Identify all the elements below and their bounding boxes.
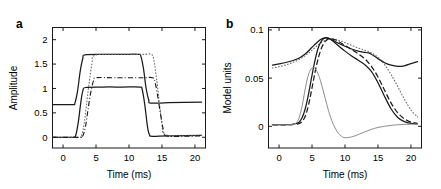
data-series-line (53, 54, 202, 104)
data-series-line (53, 54, 202, 138)
panel-a-curves (53, 54, 202, 138)
x-tick-label: 15 (373, 152, 384, 163)
y-tick-label: 0.1 (250, 24, 263, 35)
panel-a-xticklabels: 05101520 (60, 152, 200, 163)
x-tick-label: 0 (60, 152, 65, 163)
x-tick-label: 10 (340, 152, 351, 163)
x-tick-label: 5 (93, 152, 98, 163)
panel-a-plot: 05101520 00.511.52 Time (ms) Amplitude (0, 0, 220, 189)
panel-a: a 05101520 00.511.52 Time (ms) Amplitude (0, 0, 220, 189)
panel-a-ylabel: Amplitude (8, 65, 19, 110)
data-series-line (272, 38, 417, 125)
data-series-line (53, 87, 202, 138)
panel-b-yticklabels: 00.050.1 (245, 24, 264, 131)
x-tick-label: 15 (157, 152, 168, 163)
data-series-line (272, 68, 417, 138)
y-tick-label: 1 (42, 83, 47, 94)
panel-b-curves (272, 38, 417, 138)
panel-b-yticks (269, 30, 422, 126)
y-tick-label: 1.5 (34, 58, 47, 69)
panel-b-axes (269, 28, 422, 149)
data-series-line (53, 77, 202, 137)
panel-b-plot: 05101520 00.050.1 Time (ms) Model units (221, 0, 441, 189)
panel-b-xticklabels: 05101520 (276, 152, 416, 163)
y-tick-label: 0 (258, 121, 263, 132)
panel-a-xlabel: Time (ms) (107, 169, 152, 180)
y-tick-label: 0.5 (34, 107, 47, 118)
figure-container: a 05101520 00.511.52 Time (ms) Amplitude… (0, 0, 441, 189)
panel-b: b 05101520 00.050.1 Time (ms) Model unit… (221, 0, 441, 189)
panel-b-xlabel: Time (ms) (323, 169, 368, 180)
y-tick-label: 2 (42, 34, 47, 45)
x-tick-label: 0 (276, 152, 281, 163)
panel-b-ylabel: Model units (222, 62, 233, 113)
panel-a-yticklabels: 00.511.52 (34, 34, 47, 143)
x-tick-label: 20 (406, 152, 417, 163)
y-tick-label: 0 (42, 132, 47, 143)
panel-b-xticks (279, 28, 411, 149)
x-tick-label: 20 (190, 152, 201, 163)
x-tick-label: 5 (309, 152, 314, 163)
x-tick-label: 10 (124, 152, 135, 163)
y-tick-label: 0.05 (245, 73, 264, 84)
panel-a-axes (53, 28, 206, 149)
